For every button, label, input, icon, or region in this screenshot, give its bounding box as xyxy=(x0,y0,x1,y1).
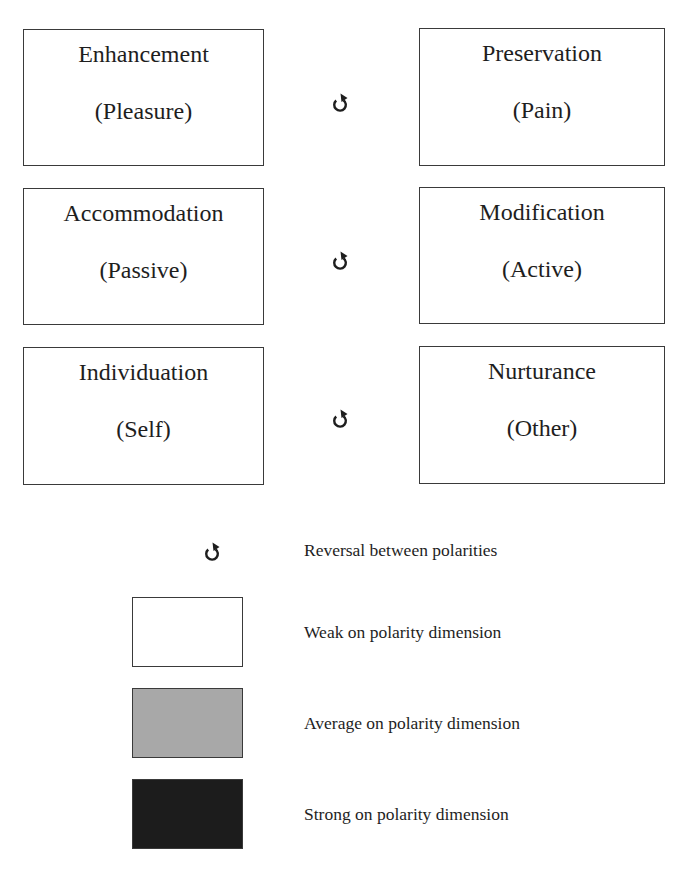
polarity-subtitle: (Active) xyxy=(420,257,664,281)
polarity-title: Individuation xyxy=(24,360,263,384)
legend-label-average: Average on polarity dimension xyxy=(304,713,520,733)
polarity-title: Enhancement xyxy=(24,42,263,66)
polarity-subtitle: (Other) xyxy=(420,416,664,440)
polarity-title: Nurturance xyxy=(420,359,664,383)
legend-label-weak: Weak on polarity dimension xyxy=(304,622,501,642)
legend-swatch-weak xyxy=(132,597,243,667)
polarity-box-nurturance: Nurturance (Other) xyxy=(419,346,665,484)
reversal-icon xyxy=(332,250,348,270)
polarity-subtitle: (Pleasure) xyxy=(24,99,263,123)
polarity-box-modification: Modification (Active) xyxy=(419,187,665,324)
legend-swatch-strong xyxy=(132,779,243,849)
polarity-box-individuation: Individuation (Self) xyxy=(23,347,264,485)
polarity-subtitle: (Passive) xyxy=(24,258,263,282)
reversal-icon xyxy=(332,92,348,112)
reversal-icon xyxy=(332,408,348,428)
polarity-box-accommodation: Accommodation (Passive) xyxy=(23,188,264,325)
legend-label-reversal: Reversal between polarities xyxy=(304,540,497,560)
polarity-title: Modification xyxy=(420,200,664,224)
polarity-title: Accommodation xyxy=(24,201,263,225)
polarity-box-enhancement: Enhancement (Pleasure) xyxy=(23,29,264,166)
legend-label-strong: Strong on polarity dimension xyxy=(304,804,509,824)
polarity-box-preservation: Preservation (Pain) xyxy=(419,28,665,166)
polarity-title: Preservation xyxy=(420,41,664,65)
reversal-icon xyxy=(204,541,220,561)
polarity-subtitle: (Self) xyxy=(24,417,263,441)
polarity-subtitle: (Pain) xyxy=(420,98,664,122)
legend-swatch-average xyxy=(132,688,243,758)
